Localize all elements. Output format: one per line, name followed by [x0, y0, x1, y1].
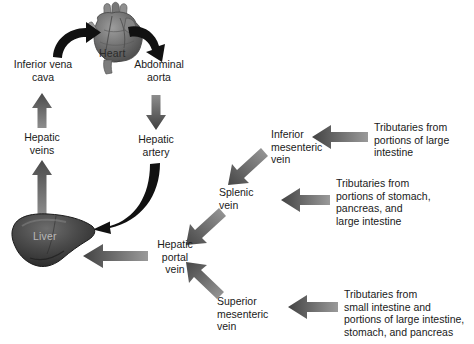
liver-label: Liver: [33, 230, 57, 242]
node-splenic-vein: Splenic vein: [219, 186, 279, 211]
node-superior-mesenteric-vein: Superior mesenteric vein: [217, 295, 287, 333]
node-tributaries-stomach-pancreas: Tributaries from portions of stomach, pa…: [336, 177, 472, 227]
node-abdominal-aorta: Abdominal aorta: [119, 58, 199, 83]
arrow-hepatic-artery-to-liver: [93, 163, 160, 234]
node-inferior-mesenteric-vein: Inferior mesenteric vein: [271, 128, 337, 166]
node-inferior-vena-cava: Inferior vena cava: [0, 58, 86, 83]
arrow-hepatic-veins-to-vena-cava: [32, 93, 52, 128]
node-tributaries-large-intestine: Tributaries from portions of large intes…: [374, 121, 474, 159]
arrow-heart-to-abdominal-aorta: [128, 26, 165, 62]
node-hepatic-portal-vein: Hepatic portal vein: [145, 238, 205, 276]
arrow-trib-stomach-to-splenic: [281, 188, 330, 212]
hepatic-portal-circulation-diagram: Heart Liver Inferior vena cava Abdominal…: [0, 0, 474, 344]
node-tributaries-small-intestine: Tributaries from small intestine and por…: [344, 288, 474, 338]
node-hepatic-veins: Hepatic veins: [8, 131, 76, 156]
arrow-trib-small-intestine-to-smv: [288, 295, 338, 319]
arrow-aorta-to-hepatic-artery: [146, 95, 166, 130]
arrow-vena-cava-to-heart: [53, 22, 101, 58]
arrow-liver-to-hepatic-veins: [32, 160, 52, 216]
node-hepatic-artery: Hepatic artery: [122, 133, 190, 158]
arrow-portal-vein-to-liver: [83, 244, 148, 268]
arrow-imv-to-splenic: [228, 148, 268, 185]
